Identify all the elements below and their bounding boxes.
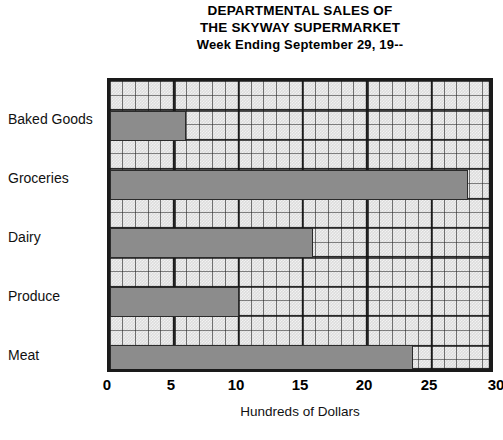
category-label-produce: Produce <box>8 288 104 304</box>
category-label-baked-goods: Baked Goods <box>8 111 104 127</box>
xtick-label-20: 20 <box>356 376 373 393</box>
xtick-label-15: 15 <box>292 376 309 393</box>
chart-title-line-1: DEPARTMENTAL SALES OF <box>107 2 493 19</box>
bar-chart-figure: DEPARTMENTAL SALES OF THE SKYWAY SUPERMA… <box>0 0 503 440</box>
bar-baked-goods <box>110 111 186 141</box>
bar-dairy <box>110 228 313 258</box>
x-axis-title: Hundreds of Dollars <box>107 404 493 419</box>
plot-area <box>107 78 493 372</box>
bar-groceries <box>110 170 468 200</box>
chart-title: DEPARTMENTAL SALES OF THE SKYWAY SUPERMA… <box>107 2 493 53</box>
category-label-groceries: Groceries <box>8 170 104 186</box>
xtick-label-5: 5 <box>167 376 175 393</box>
xtick-label-25: 25 <box>421 376 438 393</box>
chart-title-line-2: THE SKYWAY SUPERMARKET <box>107 19 493 36</box>
xtick-label-30: 30 <box>488 376 503 393</box>
bar-meat <box>110 345 413 372</box>
category-label-dairy: Dairy <box>8 229 104 245</box>
chart-title-line-3: Week Ending September 29, 19-- <box>107 36 493 53</box>
xtick-label-0: 0 <box>103 376 111 393</box>
bar-produce <box>110 287 239 317</box>
category-label-meat: Meat <box>8 347 104 363</box>
xtick-label-10: 10 <box>228 376 245 393</box>
